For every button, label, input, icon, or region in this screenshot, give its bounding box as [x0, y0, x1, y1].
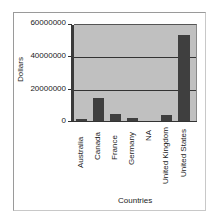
x-axis-line — [71, 121, 197, 122]
y-tick-40000000: 40000000 — [6, 51, 66, 60]
x-label-na: NA — [144, 130, 153, 141]
x-axis-title: Countries — [118, 196, 152, 205]
bar-united-states — [178, 35, 190, 122]
y-tick-60000000: 60000000 — [6, 18, 66, 27]
y-axis-title: Dollars — [16, 57, 25, 82]
x-label-united-states: United States — [179, 129, 188, 177]
x-label-united-kingdom: United Kingdom — [161, 127, 170, 184]
y-tick-20000000: 20000000 — [6, 84, 66, 93]
x-label-australia: Australia — [76, 137, 85, 168]
x-label-germany: Germany — [127, 132, 136, 165]
bar-canada — [93, 98, 104, 122]
x-label-canada: Canada — [93, 132, 102, 160]
plot-left-wall — [71, 25, 74, 122]
plot-area — [74, 24, 197, 122]
y-tick-0: 0 — [6, 116, 66, 125]
x-label-france: France — [110, 135, 119, 160]
